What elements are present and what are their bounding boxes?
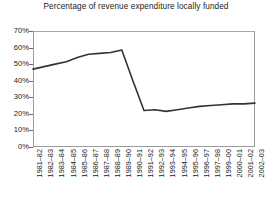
- data-line-layer: [33, 31, 255, 147]
- x-tick-label: 1990–91: [136, 149, 143, 177]
- x-tick-label: 2000–01: [236, 149, 243, 177]
- x-tick-label: 1997–98: [214, 149, 221, 177]
- x-tick-label: 1986–87: [92, 149, 99, 177]
- y-tick-label: 20%: [14, 110, 29, 118]
- chart-container: Percentage of revenue expenditure locall…: [0, 0, 272, 210]
- x-tick-label: 1981–82: [36, 149, 43, 177]
- x-tick-label: 1985–86: [81, 149, 88, 177]
- x-tick-label: 1993–94: [169, 149, 176, 177]
- x-tick-label: 1996–97: [203, 149, 210, 177]
- y-axis: 70%60%50%40%30%20%10%0%: [0, 31, 29, 147]
- x-tick-label: 2002–03: [258, 149, 265, 177]
- y-tick-label: 30%: [14, 93, 29, 101]
- y-tick-label: 0%: [18, 143, 29, 151]
- x-tick-label: 1984–85: [70, 149, 77, 177]
- x-tick-label: 1982–83: [47, 149, 54, 177]
- x-tick-label: 1991–92: [147, 149, 154, 177]
- x-tick-label: 1994–95: [181, 149, 188, 177]
- y-tick-label: 70%: [14, 27, 29, 35]
- y-tick-label: 10%: [14, 127, 29, 135]
- x-tick-label: 1992–93: [158, 149, 165, 177]
- chart-title: Percentage of revenue expenditure locall…: [0, 2, 272, 11]
- x-tick-label: 1995–96: [192, 149, 199, 177]
- x-tick-label: 1999–00: [225, 149, 232, 177]
- y-tick-mark: [29, 147, 33, 148]
- x-tick-label: 2001–02: [247, 149, 254, 177]
- y-tick-label: 50%: [14, 60, 29, 68]
- x-tick-label: 1983–84: [58, 149, 65, 177]
- x-tick-label: 1987–88: [103, 149, 110, 177]
- series-line: [33, 50, 255, 111]
- x-tick-label: 1989–90: [125, 149, 132, 177]
- y-tick-label: 40%: [14, 77, 29, 85]
- x-axis: 1981–821982–831983–841984–851985–861986–…: [33, 149, 255, 210]
- x-tick-label: 1988–89: [114, 149, 121, 177]
- y-tick-label: 60%: [14, 44, 29, 52]
